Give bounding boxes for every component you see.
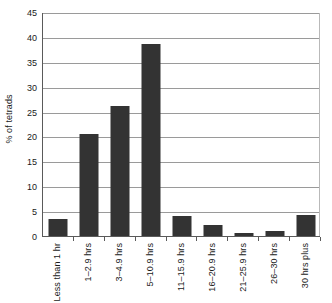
x-axis-tick-label: 1–2.9 hrs [83, 243, 93, 281]
y-axis-tick-labels: 051015202530354045 [18, 13, 40, 237]
bar-slot [105, 13, 136, 236]
x-axis-tick [135, 237, 136, 241]
x-axis-tick [289, 237, 290, 241]
y-axis-tick-label: 20 [27, 132, 37, 142]
bar-chart-figure: % of tetrads 051015202530354045 Less tha… [0, 0, 332, 303]
bar-slot [259, 13, 290, 236]
bar[interactable] [111, 106, 130, 236]
y-axis-tick-label: 0 [32, 232, 37, 242]
x-axis-tick [104, 237, 105, 241]
y-axis-tick-label: 15 [27, 157, 37, 167]
bar[interactable] [49, 219, 68, 236]
x-axis-label-slot: 11–15.9 hrs [166, 243, 197, 303]
y-axis-tick-label: 35 [27, 58, 37, 68]
x-axis-tick-label: 21–25.9 hrs [238, 243, 248, 292]
x-axis-tick [73, 237, 74, 241]
x-axis-label-slot: 26–30 hrs [258, 243, 289, 303]
x-axis-tick-label: 26–30 hrs [269, 243, 279, 284]
y-axis-title: % of tetrads [0, 0, 18, 237]
x-axis-tick [320, 237, 321, 241]
plot-area [42, 13, 320, 237]
y-axis-tick-label: 40 [27, 33, 37, 43]
y-axis-tick-label: 25 [27, 108, 37, 118]
bar[interactable] [296, 215, 315, 236]
x-axis-label-slot: 21–25.9 hrs [227, 243, 258, 303]
x-axis-label-slot: 5–10.9 hrs [135, 243, 166, 303]
y-axis-title-text: % of tetrads [4, 94, 14, 143]
bar[interactable] [80, 134, 99, 236]
bar-slot [43, 13, 74, 236]
x-axis-tick [258, 237, 259, 241]
x-axis-tick-label: 30 hrs plus [300, 243, 310, 288]
bar[interactable] [265, 231, 284, 236]
bar-slot [228, 13, 259, 236]
bar[interactable] [142, 44, 161, 236]
x-axis-tick-label: 3–4.9 hrs [114, 243, 124, 281]
bar[interactable] [203, 225, 222, 236]
bar-slot [136, 13, 167, 236]
x-axis-tick-label: Less than 1 hr [52, 243, 62, 301]
bar-slot [74, 13, 105, 236]
x-axis-label-slot: 1–2.9 hrs [73, 243, 104, 303]
bar[interactable] [172, 216, 191, 236]
x-axis-tick-label: 11–15.9 hrs [176, 243, 186, 291]
x-axis-tick-labels: Less than 1 hr1–2.9 hrs3–4.9 hrs5–10.9 h… [42, 243, 320, 303]
bar[interactable] [234, 233, 253, 236]
x-axis-tick [166, 237, 167, 241]
x-axis-tick-label: 5–10.9 hrs [145, 243, 155, 287]
x-axis-label-slot: Less than 1 hr [42, 243, 73, 303]
x-axis-tick [196, 237, 197, 241]
x-axis-tick-label: 16–20.9 hrs [207, 243, 217, 292]
x-axis-label-slot: 16–20.9 hrs [196, 243, 227, 303]
y-axis-tick-label: 45 [27, 8, 37, 18]
y-axis-tick-label: 5 [32, 207, 37, 217]
x-axis-tick [227, 237, 228, 241]
x-axis-label-slot: 3–4.9 hrs [104, 243, 135, 303]
y-axis-tick-label: 30 [27, 83, 37, 93]
y-axis-tick-label: 10 [27, 182, 37, 192]
bars-layer [43, 13, 320, 236]
bar-slot [197, 13, 228, 236]
bar-slot [290, 13, 321, 236]
bar-slot [167, 13, 198, 236]
x-axis-label-slot: 30 hrs plus [289, 243, 320, 303]
x-axis-ticks [42, 237, 320, 242]
